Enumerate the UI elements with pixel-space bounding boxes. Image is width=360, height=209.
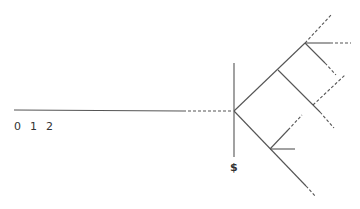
mid-node-up-dashed (313, 75, 345, 105)
lower-node-up (270, 130, 288, 149)
barrier-label: $ (230, 162, 238, 173)
mid-node-down-solid (313, 105, 320, 112)
mid-node-down (278, 70, 313, 105)
upper-node-down (305, 43, 325, 63)
branching-timeline-diagram (0, 0, 360, 209)
timeline-solid (14, 110, 183, 111)
upper-branch-dashed (305, 14, 332, 43)
lower-node-up-dashed (288, 115, 302, 130)
axis-label-0: 0 (14, 121, 21, 132)
upper-node-down-dashed (325, 63, 336, 75)
axis-label-1: 1 (30, 121, 37, 132)
upper-branch (234, 43, 305, 111)
mid-node-down-dashed (320, 112, 334, 128)
axis-label-2: 2 (46, 121, 53, 132)
lower-branch-dashed (306, 186, 316, 197)
